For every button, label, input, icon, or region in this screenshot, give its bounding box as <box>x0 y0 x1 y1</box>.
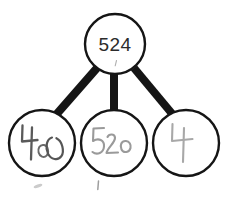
branch-group <box>55 68 174 116</box>
child-circle-left[interactable] <box>9 110 75 176</box>
child-circle-middle-group[interactable] <box>81 110 147 176</box>
number-bond-diagram: 524 <box>0 0 228 202</box>
left-branch <box>55 68 97 116</box>
child-circle-right-group[interactable] <box>153 110 219 176</box>
child-circle-left-group[interactable] <box>9 110 75 176</box>
child-circle-right[interactable] <box>153 110 219 176</box>
smudge-below-left-mark <box>33 183 43 189</box>
right-branch <box>134 68 174 116</box>
parent-value: 524 <box>99 34 132 55</box>
parent-circle-group[interactable]: 524 <box>85 14 145 74</box>
stray-marks-group <box>33 181 98 190</box>
smudge-below-middle-mark <box>98 181 99 190</box>
number-bond-canvas: 524 <box>0 0 228 202</box>
